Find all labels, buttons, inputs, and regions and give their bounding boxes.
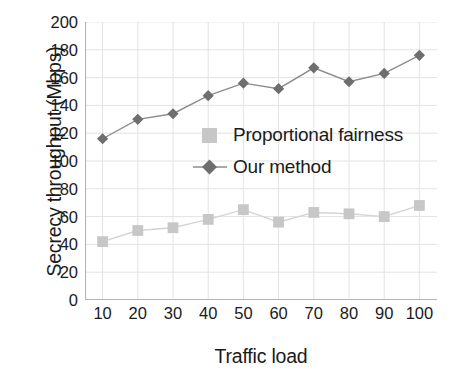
x-axis-tick-label: 50 <box>223 305 263 322</box>
data-point-marker <box>273 83 284 94</box>
data-point-marker <box>97 236 108 247</box>
data-point-marker <box>167 108 178 119</box>
x-axis-tick-label: 100 <box>399 305 439 322</box>
square-marker-icon <box>193 124 227 146</box>
chart-legend: Proportional fairness Our method <box>193 119 443 183</box>
data-point-marker <box>414 50 425 61</box>
data-point-marker <box>132 114 143 125</box>
data-point-marker <box>344 208 355 219</box>
x-axis-tick-label: 90 <box>364 305 404 322</box>
legend-item-our-method: Our method <box>193 151 443 183</box>
chart-figure: Secrecy throughput (Mbps) Traffic load 0… <box>0 0 457 381</box>
data-point-marker <box>273 217 284 228</box>
data-point-marker <box>379 211 390 222</box>
x-axis-title: Traffic load <box>85 345 437 368</box>
series-line-0 <box>103 205 420 241</box>
data-point-marker <box>168 222 179 233</box>
data-point-marker <box>308 207 319 218</box>
x-axis-tick-label: 80 <box>329 305 369 322</box>
data-point-marker <box>97 133 108 144</box>
data-point-marker <box>414 200 425 211</box>
data-point-marker <box>203 90 214 101</box>
data-point-marker <box>203 214 214 225</box>
legend-label-proportional-fairness: Proportional fairness <box>227 124 403 146</box>
x-axis-tick-label: 60 <box>259 305 299 322</box>
x-axis-tick-label: 20 <box>118 305 158 322</box>
legend-item-proportional-fairness: Proportional fairness <box>193 119 443 151</box>
x-axis-tick-label: 30 <box>153 305 193 322</box>
data-point-marker <box>308 62 319 73</box>
data-point-marker <box>238 204 249 215</box>
y-axis-title: Secrecy throughput (Mbps) <box>43 12 66 312</box>
x-axis-tick-label: 40 <box>188 305 228 322</box>
x-axis-tick-label: 10 <box>83 305 123 322</box>
data-point-marker <box>238 78 249 89</box>
data-point-marker <box>132 225 143 236</box>
diamond-marker-icon <box>193 156 227 178</box>
legend-label-our-method: Our method <box>227 156 331 178</box>
x-axis-tick-label: 70 <box>294 305 334 322</box>
